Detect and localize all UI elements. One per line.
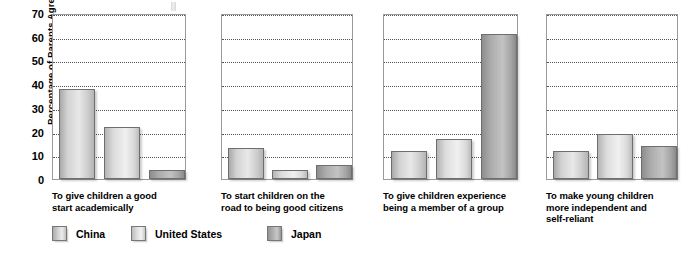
y-tick-40: 40: [18, 80, 44, 90]
bar-japan-panel4: [641, 146, 677, 179]
y-tick-10: 10: [18, 151, 44, 161]
category-label-line: self-reliant: [546, 213, 686, 225]
scan-artifact: [171, 2, 176, 11]
y-tick-0: 0: [18, 175, 44, 185]
bar-japan-panel1: [149, 170, 185, 179]
legend-swatch-japan: [267, 226, 282, 241]
plot-area: [221, 14, 353, 180]
legend-swatch-china: [52, 226, 67, 241]
plot-area: [546, 14, 678, 180]
gridline-40: [222, 86, 352, 87]
legend-label-japan: Japan: [291, 228, 321, 240]
category-label-2: To start children on theroad to being go…: [221, 190, 381, 213]
category-label-line: more independent and: [546, 202, 686, 214]
bar-china-panel3: [391, 151, 427, 179]
chart-figure: Percentage of Parents Agreeing 010203040…: [0, 0, 686, 253]
y-tick-50: 50: [18, 56, 44, 66]
y-tick-60: 60: [18, 33, 44, 43]
bar-china-panel4: [553, 151, 589, 179]
category-label-line: To make young children: [546, 190, 686, 202]
legend-item-us[interactable]: United States: [131, 226, 222, 241]
category-label-3: To give children experiencebeing a membe…: [383, 190, 547, 213]
gridline-40: [53, 86, 185, 87]
chart-panel-1: [52, 14, 186, 180]
bar-japan-panel3: [481, 34, 517, 179]
legend-label-us: United States: [155, 228, 222, 240]
legend-label-china: China: [76, 228, 105, 240]
y-tick-20: 20: [18, 128, 44, 138]
gridline-60: [222, 39, 352, 40]
legend-swatch-us: [131, 226, 146, 241]
bar-us-panel2: [272, 170, 308, 179]
bar-china-panel1: [59, 89, 95, 179]
category-label-line: being a member of a group: [383, 202, 547, 214]
category-label-line: To give children experience: [383, 190, 547, 202]
y-tick-30: 30: [18, 104, 44, 114]
gridline-70: [547, 15, 677, 16]
y-tick-70: 70: [18, 9, 44, 19]
gridline-50: [222, 62, 352, 63]
gridline-40: [547, 86, 677, 87]
gridline-30: [547, 110, 677, 111]
gridline-70: [53, 15, 185, 16]
bar-us-panel3: [436, 139, 472, 179]
chart-panel-4: [546, 14, 678, 180]
gridline-60: [53, 39, 185, 40]
gridline-20: [222, 134, 352, 135]
category-label-4: To make young childrenmore independent a…: [546, 190, 686, 225]
category-label-line: To give children a good: [52, 190, 212, 202]
category-label-line: To start children on the: [221, 190, 381, 202]
plot-area: [52, 14, 186, 180]
gridline-30: [222, 110, 352, 111]
gridline-60: [547, 39, 677, 40]
category-label-1: To give children a goodstart academicall…: [52, 190, 212, 213]
category-label-line: start academically: [52, 202, 212, 214]
legend-item-china[interactable]: China: [52, 226, 105, 241]
legend-item-japan[interactable]: Japan: [267, 226, 321, 241]
gridline-50: [53, 62, 185, 63]
bar-us-panel1: [104, 127, 140, 179]
bar-japan-panel2: [316, 165, 352, 179]
chart-panel-3: [383, 14, 518, 180]
category-label-line: road to being good citizens: [221, 202, 381, 214]
plot-area: [383, 14, 518, 180]
bar-china-panel2: [228, 148, 264, 179]
bar-us-panel4: [597, 134, 633, 179]
gridline-70: [222, 15, 352, 16]
chart-panel-2: [221, 14, 353, 180]
gridline-50: [547, 62, 677, 63]
gridline-70: [384, 15, 517, 16]
